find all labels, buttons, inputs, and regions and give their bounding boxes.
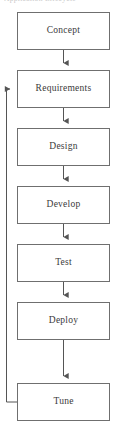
node-design-label: Design [49,142,77,152]
node-deploy[interactable]: Deploy [17,302,110,340]
node-develop[interactable]: Develop [17,186,110,224]
node-test-label: Test [55,258,72,268]
node-tune-label: Tune [53,397,73,407]
connector-tune-to-requirements-feedback [7,89,18,402]
node-concept-label: Concept [47,26,80,36]
node-requirements-label: Requirements [36,84,92,94]
node-develop-label: Develop [47,200,81,210]
node-test[interactable]: Test [17,244,110,282]
node-tune[interactable]: Tune [17,383,110,421]
process-flow-diagram: Application Lifecycle Concept Requiremen… [0,0,119,433]
node-deploy-label: Deploy [49,316,78,326]
node-concept[interactable]: Concept [17,12,110,50]
node-design[interactable]: Design [17,128,110,166]
node-requirements[interactable]: Requirements [17,70,110,108]
